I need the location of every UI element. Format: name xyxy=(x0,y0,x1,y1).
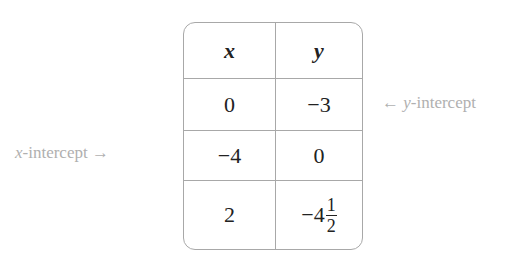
cell-x: −4 xyxy=(184,131,275,180)
fraction: 1 2 xyxy=(326,196,337,235)
right-arrow-icon: → xyxy=(92,143,109,162)
cell-y: 0 xyxy=(276,131,362,180)
cell-y: −3 xyxy=(276,79,362,130)
denominator: 2 xyxy=(327,216,336,235)
header-x: x xyxy=(184,23,275,78)
y-intercept-label: ← y-intercept xyxy=(382,93,476,113)
whole-part: −4 xyxy=(301,202,324,228)
numerator: 1 xyxy=(326,196,337,216)
cell-x: 2 xyxy=(184,181,275,249)
cell-y-mixed-fraction: −4 1 2 xyxy=(276,181,362,249)
left-arrow-icon: ← xyxy=(382,93,399,112)
x-intercept-label: x-intercept → xyxy=(15,143,109,163)
xy-table: x y 0 −3 −4 0 2 −4 1 2 xyxy=(183,22,363,250)
header-y: y xyxy=(276,23,362,78)
cell-x: 0 xyxy=(184,79,275,130)
